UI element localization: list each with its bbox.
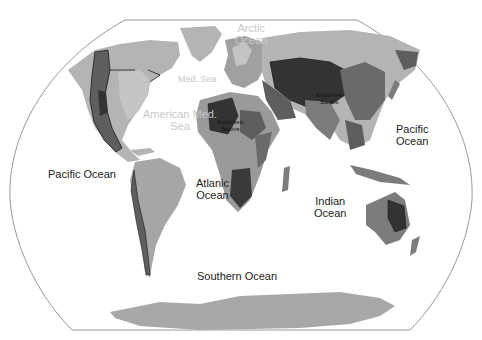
label-endo-asia-line2: Basins — [316, 99, 343, 106]
label-indian-ocean: Indian Ocean — [314, 195, 346, 219]
label-indian-line1: Indian — [314, 195, 346, 207]
label-amed-line1: American Med. — [143, 108, 217, 120]
label-arctic-line1: Arctic — [235, 22, 267, 34]
label-indian-line2: Ocean — [314, 207, 346, 219]
label-endo-africa-line1: Endorheic — [217, 119, 244, 126]
label-atlantic-line2: Ocean — [196, 189, 229, 201]
label-med-sea: Med. Sea — [178, 75, 217, 85]
label-atlantic-line1: Atlanic — [196, 177, 229, 189]
label-pacific-ocean-west: Pacific Ocean — [48, 168, 116, 180]
label-endo-asia-line1: Endorheic — [316, 92, 343, 99]
label-pacific-east-line2: Ocean — [396, 135, 428, 147]
label-pacific-east-line1: Pacific — [396, 123, 428, 135]
label-amed-line2: Sea — [143, 120, 217, 132]
label-arctic-line2: Ocean — [235, 34, 267, 46]
label-endorheic-asia: Endorheic Basins — [316, 92, 343, 105]
label-atlantic-ocean: Atlanic Ocean — [196, 177, 229, 201]
label-arctic-ocean: Arctic Ocean — [235, 22, 267, 46]
label-endo-africa-line2: Basins — [217, 126, 244, 133]
label-american-med-sea: American Med. Sea — [143, 108, 217, 132]
label-endorheic-africa: Endorheic Basins — [217, 119, 244, 132]
label-pacific-ocean-east: Pacific Ocean — [396, 123, 428, 147]
label-southern-ocean: Southern Ocean — [197, 270, 277, 282]
